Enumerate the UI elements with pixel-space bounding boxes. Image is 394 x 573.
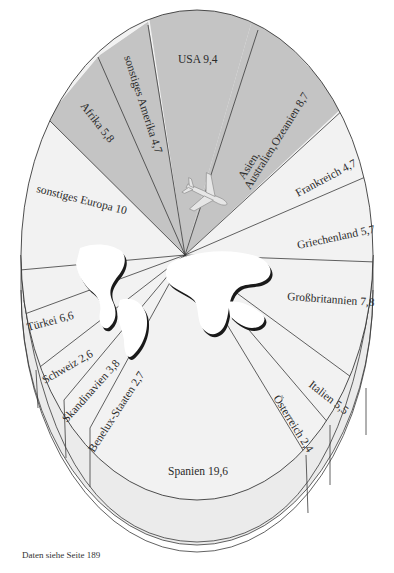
label-usa: USA 9,4 xyxy=(178,53,218,66)
label-spanien: Spanien 19,6 xyxy=(168,465,228,478)
pie-chart: USA 9,4 sonstiges Amerika 4,7 Afrika 5,8… xyxy=(0,0,394,573)
footnote: Daten siehe Seite 189 xyxy=(22,550,100,560)
